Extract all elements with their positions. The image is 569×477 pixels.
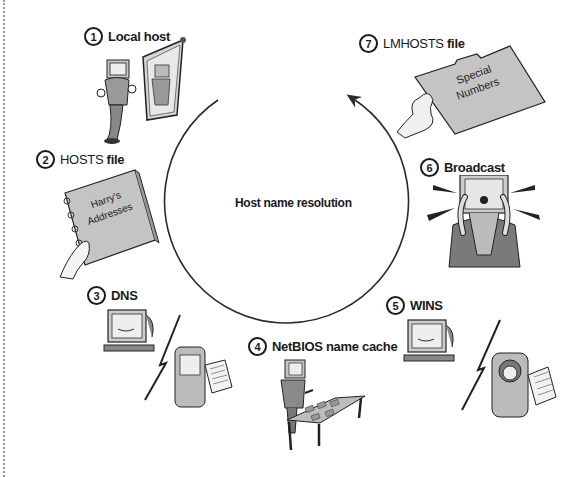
cache-table-illustration: [275, 358, 370, 458]
step-dns: 3 DNS: [87, 286, 138, 305]
step-number-badge: 5: [386, 296, 405, 315]
address-book-illustration: Harry's Addresses: [55, 165, 170, 285]
step-wins: 5 WINS: [386, 296, 443, 315]
special-numbers-folder-illustration: Special Numbers: [395, 42, 565, 142]
dns-call-illustration: [100, 305, 235, 420]
step-number-badge: 4: [248, 337, 267, 356]
broadcast-shouting-illustration: [405, 175, 565, 275]
step-label: NetBIOS name cache: [272, 339, 397, 354]
mirror-person-illustration: [95, 35, 195, 145]
step-netbios-name-cache: 4 NetBIOS name cache: [248, 337, 397, 356]
step-number-badge: 3: [87, 286, 106, 305]
step-number-badge: 2: [36, 150, 55, 169]
step-label: DNS: [111, 288, 138, 303]
step-label: Broadcast: [444, 160, 505, 175]
step-number-badge: 7: [359, 34, 378, 53]
step-label: WINS: [410, 298, 443, 313]
diagram-title: Host name resolution: [235, 196, 352, 210]
wins-call-illustration: [400, 315, 565, 435]
